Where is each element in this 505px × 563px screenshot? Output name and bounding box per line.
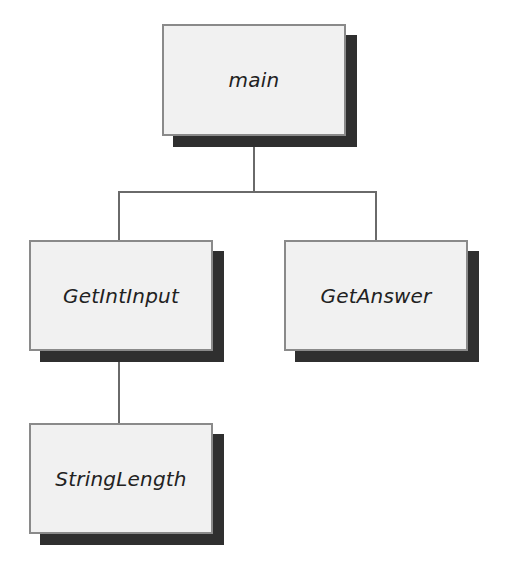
connector-horizontal xyxy=(118,191,377,193)
connector-to-getintinput xyxy=(118,191,120,240)
node-box-getanswer: GetAnswer xyxy=(284,240,468,351)
node-label-getanswer: GetAnswer xyxy=(320,284,431,308)
node-box-main: main xyxy=(162,24,346,136)
node-label-stringlength: StringLength xyxy=(55,467,186,491)
hierarchy-diagram: main GetIntInput GetAnswer StringLength xyxy=(0,0,505,563)
node-label-getintinput: GetIntInput xyxy=(63,284,179,308)
connector-to-getanswer xyxy=(375,191,377,240)
node-box-getintinput: GetIntInput xyxy=(29,240,213,351)
node-label-main: main xyxy=(229,68,280,92)
node-box-stringlength: StringLength xyxy=(29,423,213,534)
